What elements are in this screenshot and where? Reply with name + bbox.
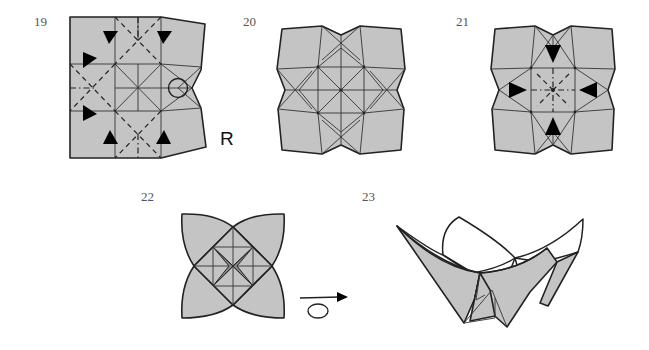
diagram-canvas: 19 20 21 22 23 R bbox=[0, 0, 649, 350]
step-19-diagram bbox=[70, 17, 206, 158]
step-22-diagram bbox=[182, 214, 285, 318]
step-21-diagram bbox=[491, 26, 615, 154]
step-20-diagram bbox=[277, 26, 405, 154]
diagram-svg bbox=[0, 0, 649, 350]
step-23-diagram bbox=[397, 217, 583, 327]
turn-over-arrow-icon bbox=[300, 292, 348, 318]
